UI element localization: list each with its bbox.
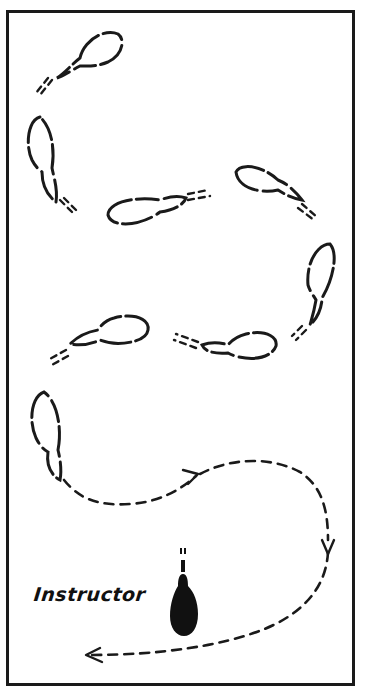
footprint-2 bbox=[28, 117, 76, 212]
footprint-5 bbox=[292, 244, 334, 340]
diagram-canvas: Instructor bbox=[0, 0, 373, 687]
footprint-4 bbox=[236, 167, 318, 220]
footprint-7 bbox=[48, 316, 148, 366]
arrow-right-icon bbox=[183, 470, 198, 484]
footprint-1 bbox=[36, 32, 122, 95]
footprint-3 bbox=[108, 190, 210, 224]
arrow-down-icon bbox=[322, 540, 334, 554]
instructor-figure-icon bbox=[170, 548, 198, 636]
instructor-label: Instructor bbox=[33, 583, 147, 605]
footprint-8 bbox=[32, 392, 61, 480]
footprint-6 bbox=[174, 333, 276, 359]
